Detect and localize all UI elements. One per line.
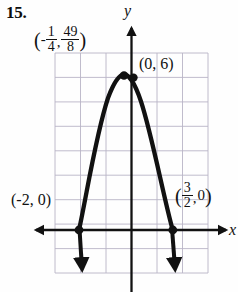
left-root-label: (-2, 0) — [11, 192, 51, 208]
right-root-x-numerator: 3 — [182, 181, 193, 196]
right-root-x-denominator: 2 — [182, 196, 193, 210]
vertex-close-paren: ) — [79, 29, 86, 51]
point-root-right — [168, 226, 177, 235]
vertex-x-denominator: 4 — [46, 40, 57, 54]
vertex-open-paren: ( — [34, 29, 41, 51]
point-vertex — [120, 71, 128, 79]
point-root-left — [75, 226, 84, 235]
figure-container: 15. — [0, 0, 238, 292]
x-axis-label: x — [229, 222, 236, 238]
vertex-coordinate-label: (-14,498) — [34, 26, 86, 56]
point-y-intercept — [129, 73, 137, 81]
axis-lines — [36, 28, 226, 292]
vertex-x-numerator: 1 — [46, 25, 57, 40]
right-root-close-paren: ) — [205, 185, 212, 207]
y-intercept-label: (0, 6) — [139, 56, 174, 72]
curve-arrow-right — [172, 231, 175, 268]
right-root-x-fraction: 32 — [182, 181, 193, 211]
vertex-y-denominator: 8 — [61, 40, 79, 54]
vertex-x-fraction: 14 — [46, 25, 57, 55]
curve-arrow-left — [80, 231, 82, 268]
plotted-points — [75, 71, 178, 234]
right-root-open-paren: ( — [175, 185, 182, 207]
y-axis-label: y — [124, 3, 131, 19]
parabola-curve — [79, 74, 175, 268]
vertex-y-fraction: 498 — [61, 25, 79, 55]
vertex-y-numerator: 49 — [61, 25, 79, 40]
right-root-label: (32,0) — [175, 182, 212, 212]
right-root-y-value: 0 — [197, 187, 205, 203]
